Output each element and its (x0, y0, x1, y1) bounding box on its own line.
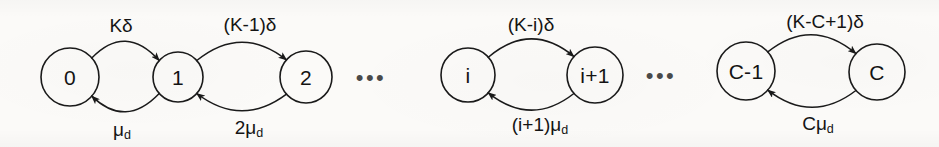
transition-arrow-bc (768, 90, 856, 107)
state-node-label: 1 (172, 67, 184, 88)
transition-arrow-b10 (92, 94, 159, 112)
state-node-label: 2 (300, 67, 312, 88)
rate-subscript: d (561, 123, 568, 137)
continuation-ellipsis: ••• (356, 67, 387, 89)
transition-arrow-bi (488, 93, 574, 110)
transition-rate-label: (i+1)μd (512, 115, 568, 137)
transition-arrow-fi (488, 39, 574, 57)
rate-subscript: d (256, 126, 263, 140)
transition-rate-label: Cμd (802, 114, 834, 136)
transition-rate-label: μd (113, 120, 131, 142)
rate-subscript: d (124, 128, 131, 142)
state-node-label: i+1 (580, 65, 610, 86)
transition-arrow-fc (768, 35, 856, 54)
state-node-label: C-1 (729, 61, 764, 82)
transition-rate-label: 2μd (235, 118, 264, 140)
state-node-label: 0 (64, 67, 76, 88)
rate-subscript: d (827, 122, 834, 136)
diagram-canvas: 012ii+1C-1CKδμd(K-1)δ2μd(K-i)δ(i+1)μd(K-… (0, 0, 939, 147)
continuation-ellipsis: ••• (646, 65, 677, 87)
transition-arrow-b21 (197, 94, 287, 111)
transition-rate-label: Kδ (109, 16, 132, 35)
nodes-layer (41, 42, 905, 106)
transition-arrow-f12 (197, 42, 287, 60)
transition-arrow-f01 (92, 41, 159, 60)
transition-rate-label: (K-C+1)δ (786, 12, 864, 31)
transition-rate-label: (K-1)δ (224, 15, 277, 34)
state-node-label: i (466, 65, 471, 86)
transition-rate-label: (K-i)δ (508, 15, 554, 34)
state-node-label: C (869, 62, 884, 83)
